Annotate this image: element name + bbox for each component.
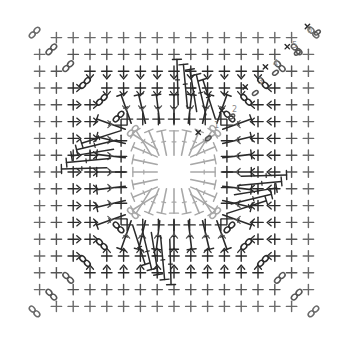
single-crochet-icon bbox=[85, 284, 95, 294]
single-crochet-icon bbox=[303, 268, 313, 278]
double-crochet-icon bbox=[80, 131, 120, 148]
single-crochet-icon bbox=[286, 268, 296, 278]
single-crochet-icon bbox=[200, 219, 211, 230]
single-crochet-icon bbox=[51, 251, 61, 261]
single-crochet-icon bbox=[51, 150, 61, 160]
single-crochet-icon bbox=[186, 301, 196, 311]
crochet-chart: 123456 bbox=[0, 0, 348, 360]
single-crochet-icon bbox=[286, 66, 296, 76]
single-crochet-icon bbox=[253, 301, 263, 311]
single-crochet-icon bbox=[34, 150, 44, 160]
single-crochet-icon bbox=[221, 135, 232, 146]
chain-icon bbox=[272, 70, 279, 77]
single-crochet-icon bbox=[102, 32, 112, 42]
single-crochet-icon bbox=[34, 83, 44, 93]
single-crochet-icon bbox=[202, 301, 212, 311]
single-crochet-icon bbox=[152, 32, 162, 42]
single-crochet-icon bbox=[51, 66, 61, 76]
round-number-label: 5 bbox=[292, 41, 297, 50]
single-crochet-icon bbox=[286, 167, 296, 177]
double-crochet-icon bbox=[157, 130, 166, 155]
single-crochet-icon bbox=[51, 83, 61, 93]
single-crochet-icon bbox=[34, 184, 44, 194]
corner-chain-icon bbox=[28, 26, 41, 39]
single-crochet-icon bbox=[51, 301, 61, 311]
single-crochet-icon bbox=[236, 49, 246, 59]
single-crochet-icon bbox=[303, 116, 313, 126]
single-crochet-icon bbox=[286, 83, 296, 93]
single-crochet-icon bbox=[51, 100, 61, 110]
single-crochet-icon bbox=[286, 116, 296, 126]
single-crochet-icon bbox=[153, 113, 164, 124]
single-crochet-icon bbox=[184, 113, 195, 124]
single-crochet-icon bbox=[51, 133, 61, 143]
double-crochet-icon bbox=[132, 155, 157, 164]
single-crochet-icon bbox=[303, 133, 313, 143]
single-crochet-icon bbox=[51, 200, 61, 210]
stitch-layer bbox=[28, 24, 321, 317]
single-crochet-icon bbox=[184, 219, 195, 230]
single-crochet-icon bbox=[34, 251, 44, 261]
single-crochet-icon bbox=[303, 251, 313, 261]
corner-chain-icon bbox=[95, 93, 108, 106]
single-crochet-icon bbox=[303, 200, 313, 210]
single-crochet-icon bbox=[152, 49, 162, 59]
chain-icon bbox=[252, 90, 259, 97]
single-crochet-icon bbox=[202, 49, 212, 59]
corner-chain-icon bbox=[112, 110, 125, 123]
corner-chain-icon bbox=[307, 305, 320, 318]
round-number-label: 4 bbox=[273, 59, 278, 68]
single-crochet-icon bbox=[51, 184, 61, 194]
single-crochet-icon bbox=[303, 234, 313, 244]
single-crochet-icon bbox=[51, 217, 61, 227]
round-number-label: 1 bbox=[214, 121, 219, 130]
single-crochet-icon bbox=[303, 167, 313, 177]
single-crochet-icon bbox=[34, 116, 44, 126]
single-crochet-icon bbox=[168, 113, 179, 124]
corner-chain-icon bbox=[223, 221, 236, 234]
single-crochet-icon bbox=[169, 49, 179, 59]
single-crochet-icon bbox=[135, 32, 145, 42]
double-crochet-icon bbox=[182, 130, 191, 155]
single-crochet-icon bbox=[118, 49, 128, 59]
double-crochet-icon bbox=[133, 226, 150, 266]
single-crochet-icon bbox=[186, 49, 196, 59]
double-crochet-icon bbox=[191, 168, 215, 177]
single-crochet-icon bbox=[202, 32, 212, 42]
single-crochet-icon bbox=[286, 150, 296, 160]
single-crochet-icon bbox=[221, 166, 232, 177]
single-crochet-icon bbox=[51, 234, 61, 244]
corner-chain-icon bbox=[79, 77, 92, 90]
single-crochet-icon bbox=[34, 284, 44, 294]
single-crochet-icon bbox=[68, 284, 78, 294]
double-crochet-icon bbox=[132, 180, 157, 189]
double-crochet-icon bbox=[199, 78, 216, 118]
single-crochet-icon bbox=[85, 301, 95, 311]
single-crochet-icon bbox=[270, 32, 280, 42]
round-number-label: 2 bbox=[232, 105, 237, 114]
single-crochet-icon bbox=[34, 66, 44, 76]
single-crochet-icon bbox=[236, 284, 246, 294]
corner-chain-icon bbox=[62, 60, 75, 73]
single-crochet-icon bbox=[286, 251, 296, 261]
single-crochet-icon bbox=[118, 32, 128, 42]
single-crochet-icon bbox=[51, 167, 61, 177]
single-crochet-icon bbox=[137, 113, 148, 124]
single-crochet-icon bbox=[219, 284, 229, 294]
round-number-label: 3 bbox=[258, 77, 263, 86]
single-crochet-icon bbox=[135, 301, 145, 311]
single-crochet-icon bbox=[221, 151, 232, 162]
corner-chain-icon bbox=[273, 271, 286, 284]
single-crochet-icon bbox=[286, 200, 296, 210]
single-crochet-icon bbox=[34, 234, 44, 244]
single-crochet-icon bbox=[286, 234, 296, 244]
single-crochet-icon bbox=[270, 284, 280, 294]
single-crochet-icon bbox=[270, 301, 280, 311]
single-crochet-icon bbox=[85, 32, 95, 42]
single-crochet-icon bbox=[253, 284, 263, 294]
single-crochet-icon bbox=[168, 219, 179, 230]
single-crochet-icon bbox=[219, 49, 229, 59]
single-crochet-icon bbox=[169, 301, 179, 311]
single-crochet-icon bbox=[152, 284, 162, 294]
single-crochet-icon bbox=[169, 32, 179, 42]
